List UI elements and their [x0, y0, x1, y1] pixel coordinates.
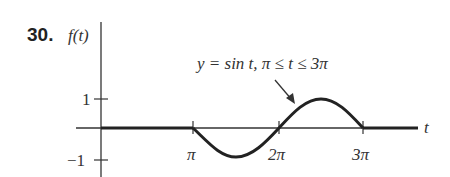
- annotation-label: y = sin t, π ≤ t ≤ 3π: [195, 54, 328, 73]
- y-tick-label-neg1: −1: [67, 151, 85, 170]
- problem-number: 30.: [27, 24, 53, 45]
- graph: 30. f(t) 1 −1 π 2π 3π t y = sin t, π ≤ t…: [0, 0, 450, 177]
- x-tick-label-pi: π: [187, 145, 196, 164]
- x-tick-label-2pi: 2π: [268, 145, 286, 164]
- y-tick-label-1: 1: [82, 90, 91, 109]
- x-axis-label: t: [424, 118, 430, 137]
- y-axis-label: f(t): [68, 26, 89, 45]
- x-tick-label-3pi: 3π: [351, 145, 370, 164]
